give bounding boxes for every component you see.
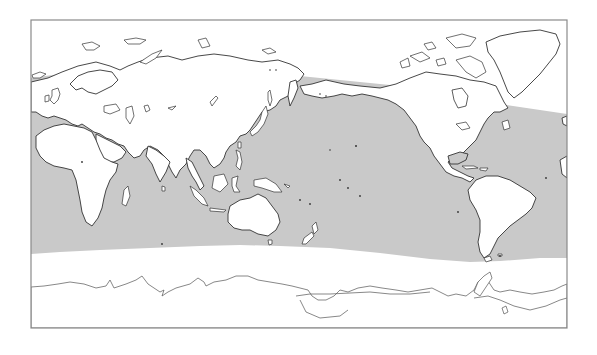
arctic-islet-2 bbox=[436, 58, 446, 66]
ellesmere-island bbox=[446, 34, 476, 48]
banks-island bbox=[400, 58, 410, 68]
franz-josef-land bbox=[124, 38, 146, 44]
svalbard bbox=[82, 42, 100, 50]
tasmania bbox=[268, 240, 272, 245]
severnaya-zemlya bbox=[198, 38, 210, 48]
new-siberian-islands bbox=[262, 48, 276, 54]
baffin-island bbox=[456, 56, 486, 78]
map-canvas bbox=[0, 0, 597, 355]
world-map bbox=[0, 0, 597, 355]
victoria-island bbox=[410, 52, 430, 62]
arctic-islet-1 bbox=[424, 42, 436, 50]
ireland bbox=[45, 95, 49, 102]
taiwan bbox=[238, 142, 241, 148]
sri-lanka bbox=[162, 186, 165, 191]
